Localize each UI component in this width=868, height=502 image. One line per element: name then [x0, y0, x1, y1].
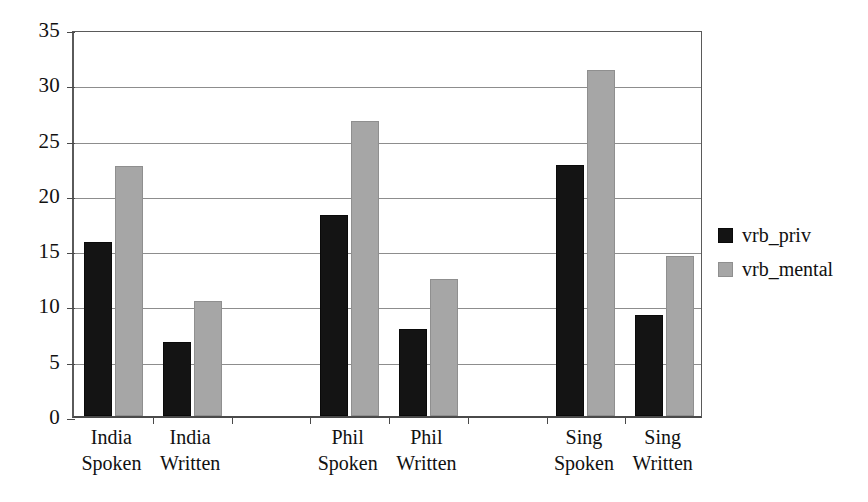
x-axis-tick-mark: [153, 416, 154, 424]
category-label-line1: Sing: [610, 424, 715, 450]
category-label-line1: India: [138, 424, 243, 450]
x-axis-tick-mark: [232, 416, 233, 424]
y-axis-tick-label: 20: [20, 186, 60, 207]
bar-vrb-priv: [320, 215, 348, 416]
y-axis-tick-labels: 05101520253035: [14, 0, 60, 502]
y-axis-tick-label: 35: [20, 20, 60, 41]
legend-swatch-icon: [718, 262, 733, 277]
bar-chart: 05101520253035 IndiaSpokenIndiaWrittenPh…: [0, 0, 868, 502]
bar-vrb-mental: [430, 279, 458, 416]
legend-item: vrb_priv: [718, 218, 868, 252]
bar-vrb-mental: [115, 166, 143, 416]
x-axis-tick-mark: [625, 416, 626, 424]
x-axis-category-label: IndiaWritten: [138, 424, 243, 476]
y-axis-tick-label: 15: [20, 241, 60, 262]
plot-area: [72, 31, 702, 418]
x-axis-category-labels: IndiaSpokenIndiaWrittenPhilSpokenPhilWri…: [72, 424, 702, 494]
category-label-line2: Written: [610, 450, 715, 476]
x-axis-tick-mark: [468, 416, 469, 424]
x-axis-tick-mark: [310, 416, 311, 424]
legend-swatch-icon: [718, 228, 733, 243]
bar-vrb-mental: [587, 70, 615, 416]
y-axis-tick-label: 0: [20, 407, 60, 428]
bar-vrb-priv: [556, 165, 584, 416]
category-label-line2: Written: [138, 450, 243, 476]
bar-vrb-mental: [351, 121, 379, 416]
y-axis-tick-label: 10: [20, 296, 60, 317]
x-axis-tick-mark: [547, 416, 548, 424]
category-label-line1: Phil: [374, 424, 479, 450]
legend-item: vrb_mental: [718, 252, 868, 286]
y-axis-tick-mark: [67, 419, 75, 420]
legend-item-label: vrb_mental: [742, 259, 833, 279]
bar-vrb-mental: [194, 301, 222, 416]
bar-vrb-mental: [666, 256, 694, 416]
y-axis-tick-label: 5: [20, 352, 60, 373]
bar-vrb-priv: [635, 315, 663, 416]
category-label-line2: Written: [374, 450, 479, 476]
bar-vrb-priv: [399, 329, 427, 416]
x-axis-category-label: PhilWritten: [374, 424, 479, 476]
legend-item-label: vrb_priv: [742, 225, 811, 245]
bar-vrb-priv: [163, 342, 191, 416]
x-axis-category-label: SingWritten: [610, 424, 715, 476]
y-axis-tick-label: 25: [20, 131, 60, 152]
chart-legend: vrb_privvrb_mental: [718, 218, 868, 286]
bars-layer: [74, 32, 701, 416]
x-axis-tick-mark: [389, 416, 390, 424]
bar-vrb-priv: [84, 242, 112, 416]
y-axis-tick-label: 30: [20, 75, 60, 96]
